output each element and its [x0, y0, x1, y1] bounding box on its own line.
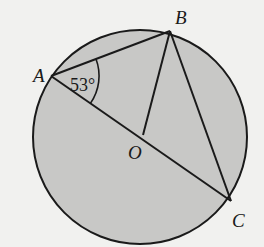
label-point-a: A	[31, 65, 45, 86]
diagram-canvas: A B O C 53°	[0, 0, 264, 247]
label-point-b: B	[175, 7, 187, 28]
geometry-diagram: A B O C 53°	[0, 0, 264, 247]
angle-label-53: 53°	[70, 75, 95, 95]
label-point-o: O	[128, 142, 142, 163]
label-point-c: C	[232, 210, 245, 231]
